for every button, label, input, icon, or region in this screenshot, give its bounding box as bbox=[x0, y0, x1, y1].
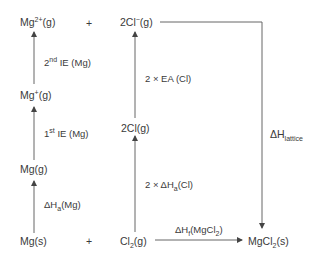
label-atomisation-mg: ΔHa(Mg) bbox=[44, 199, 81, 211]
species-mg-g: Mg(g) bbox=[20, 163, 47, 175]
label-second-ie: 2nd IE (Mg) bbox=[44, 57, 91, 69]
species-mg2plus-g: Mg2+(g) bbox=[20, 16, 55, 28]
label-first-ie: 1st IE (Mg) bbox=[44, 128, 89, 140]
species-mg-s: Mg(s) bbox=[20, 235, 47, 247]
species-mgplus-g: Mg+(g) bbox=[20, 89, 52, 101]
label-formation-enthalpy: ΔHf(MgCl2) bbox=[175, 224, 223, 236]
label-lattice-enthalpy: ΔHlattice bbox=[270, 128, 303, 140]
species-cl2-g: Cl2(g) bbox=[120, 235, 147, 247]
species-mgcl2-s: MgCl2(s) bbox=[248, 235, 289, 247]
species-2cl-minus-g: 2Cl−(g) bbox=[120, 16, 153, 28]
plus-sign-bottom: + bbox=[86, 235, 92, 247]
label-atomisation-cl: 2 × ΔHa(Cl) bbox=[145, 179, 193, 191]
species-2cl-g: 2Cl(g) bbox=[121, 122, 150, 134]
plus-sign-top: + bbox=[86, 17, 92, 29]
label-electron-affinity: 2 × EA (Cl) bbox=[145, 73, 191, 85]
arrow-lattice bbox=[160, 22, 262, 228]
